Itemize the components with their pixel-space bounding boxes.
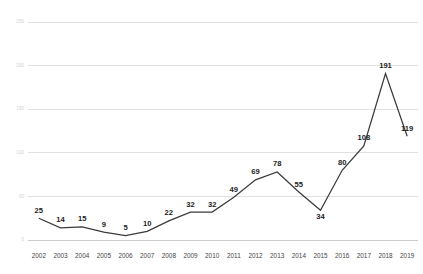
x-axis-tick-label: 2018 [378,252,393,259]
y-axis-tick-label: 200 [16,63,24,68]
y-axis-tick-label: 100 [16,150,24,155]
y-axis-tick-label: 250 [16,19,24,24]
x-axis-tick-label: 2003 [53,252,68,259]
x-axis-tick-label: 2004 [75,252,90,259]
data-point-label: 32 [208,200,216,209]
y-axis-tick-label: 150 [16,106,24,111]
line-chart: 0501001502002502514159510223232496978553… [0,0,423,274]
x-axis-tick-label: 2016 [335,252,350,259]
data-point-label: 34 [316,212,325,221]
x-axis-tick-label: 2010 [205,252,220,259]
data-point-label: 25 [35,206,44,215]
data-point-label: 32 [186,200,194,209]
x-axis-tick-label: 2002 [32,252,47,259]
x-axis-tick-label: 2006 [118,252,133,259]
data-point-label: 15 [78,214,87,223]
x-axis-tick-label: 2019 [400,252,415,259]
x-axis-tick-label: 2011 [227,252,241,259]
y-axis-tick-label: 50 [19,194,25,199]
chart-plot-area: 0501001502002502514159510223232496978553… [0,0,423,274]
data-point-label: 49 [230,185,238,194]
data-point-label: 5 [123,223,128,232]
x-axis-tick-label: 2017 [357,252,372,259]
x-axis-tick-label: 2009 [183,252,198,259]
data-point-label: 22 [165,208,173,217]
data-point-label: 78 [273,159,281,168]
data-point-label: 9 [102,220,106,229]
x-axis-tick-label: 2008 [162,252,177,259]
x-axis-tick-label: 2013 [270,252,285,259]
x-axis-tick-label: 2007 [140,252,155,259]
data-point-label: 108 [357,133,370,142]
x-axis-tick-label: 2012 [248,252,263,259]
x-axis-tick-label: 2005 [97,252,112,259]
data-point-label: 55 [295,180,304,189]
data-point-label: 191 [379,61,392,70]
data-point-label: 80 [338,158,346,167]
data-labels-group: 2514159510223232496978553480108191119 [35,61,414,232]
x-axis-group: 2002200320042005200620072008200920102011… [32,252,415,259]
data-point-label: 10 [143,219,151,228]
y-axis-tick-label: 0 [21,237,24,242]
x-axis-tick-label: 2014 [292,252,307,259]
data-point-label: 119 [401,124,413,133]
data-point-label: 14 [56,215,65,224]
data-series-line [39,73,407,235]
x-axis-tick-label: 2015 [313,252,328,259]
data-point-label: 69 [251,167,259,176]
